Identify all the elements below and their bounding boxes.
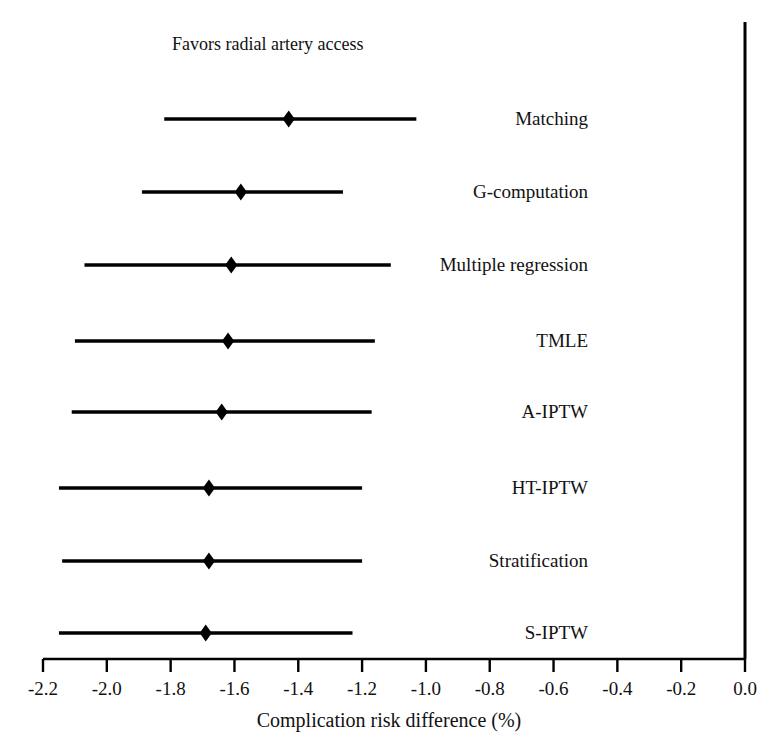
row-label: TMLE (536, 330, 588, 352)
x-tick-label: -2.0 (92, 678, 122, 700)
favors-annotation: Favors radial artery access (172, 34, 363, 55)
x-tick-label: -0.4 (602, 678, 632, 700)
row-label: Stratification (489, 550, 588, 572)
x-tick-label: 0.0 (733, 678, 757, 700)
forest-plot-canvas (0, 0, 778, 752)
row-label: Matching (515, 108, 588, 130)
x-tick-label: -2.2 (28, 678, 58, 700)
x-tick-label: -1.4 (283, 678, 313, 700)
row-label: Multiple regression (440, 254, 588, 276)
forest-plot-page: { "chart_data": { "type": "scatter", "su… (0, 0, 778, 752)
x-tick-label: -0.8 (475, 678, 505, 700)
row-label: S-IPTW (525, 622, 588, 644)
x-tick-label: -0.2 (666, 678, 696, 700)
x-tick-label: -1.6 (219, 678, 249, 700)
x-tick-label: -0.6 (538, 678, 568, 700)
x-tick-label: -1.0 (411, 678, 441, 700)
plot-background (0, 0, 778, 752)
row-label: G-computation (473, 181, 588, 203)
x-axis-title: Complication risk difference (%) (257, 709, 522, 732)
row-label: HT-IPTW (512, 477, 588, 499)
x-tick-label: -1.2 (347, 678, 377, 700)
row-label: A-IPTW (522, 401, 588, 423)
x-tick-label: -1.8 (156, 678, 186, 700)
